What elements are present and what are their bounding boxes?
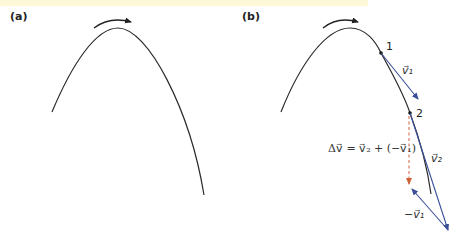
panel-a [52, 20, 204, 195]
v2-label: v⃗₂ [431, 152, 443, 165]
rotation-arrow-icon [323, 20, 358, 28]
delta-v-equation: Δv⃗ = v⃗₂ + (−v⃗₁) [328, 142, 416, 155]
point-1-label: 1 [386, 40, 393, 53]
v1-label: v⃗₁ [402, 64, 413, 77]
trajectory-curve [281, 28, 431, 194]
point-2-label: 2 [416, 107, 423, 120]
motion-diagram: 1 v⃗₁ 2 v⃗₂ −v⃗₁ Δv⃗ = v⃗₂ + (−v⃗₁) [0, 0, 459, 244]
rotation-arrow-icon [94, 20, 131, 28]
trajectory-curve [52, 28, 204, 195]
panel-b: 1 v⃗₁ 2 v⃗₂ −v⃗₁ Δv⃗ = v⃗₂ + (−v⃗₁) [281, 20, 448, 230]
neg-v1-label: −v⃗₁ [404, 208, 424, 221]
